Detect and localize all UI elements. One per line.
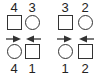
top-label: 3 (58, 1, 72, 14)
bottom-label: 1 (58, 62, 72, 75)
circle-icon (78, 15, 93, 30)
arrow-right-icon (6, 35, 22, 43)
square-icon (7, 15, 22, 30)
circle-icon (25, 15, 40, 30)
bottom-label: 2 (78, 62, 92, 75)
arrow-left-icon (78, 35, 94, 43)
top-label: 4 (7, 1, 21, 14)
bottom-label: 1 (25, 62, 39, 75)
arrow-right-icon (57, 35, 73, 43)
square-icon (78, 44, 93, 59)
circle-icon (58, 44, 73, 59)
square-icon (25, 44, 40, 59)
bottom-label: 4 (7, 62, 21, 75)
square-icon (58, 15, 73, 30)
top-label: 2 (78, 1, 92, 14)
top-label: 3 (25, 1, 39, 14)
circle-icon (7, 44, 22, 59)
arrow-left-icon (25, 35, 41, 43)
